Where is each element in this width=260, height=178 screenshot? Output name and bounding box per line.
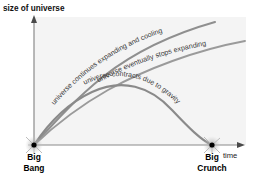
- big-bang-label-line1: Big: [27, 152, 41, 162]
- cosmology-expansion-diagram: universe continues expanding and cooling…: [0, 0, 260, 178]
- x-axis-title: time: [223, 151, 237, 160]
- big-crunch-point: [209, 142, 214, 147]
- big-crunch-label-line1: Big: [205, 152, 219, 162]
- big-bang-point: [31, 142, 36, 147]
- y-axis-title: size of universe: [3, 4, 65, 13]
- big-crunch-label-line2: Crunch: [197, 163, 226, 173]
- diagram-canvas: universe continues expanding and cooling…: [0, 0, 260, 178]
- big-bang-label-line2: Bang: [24, 163, 45, 173]
